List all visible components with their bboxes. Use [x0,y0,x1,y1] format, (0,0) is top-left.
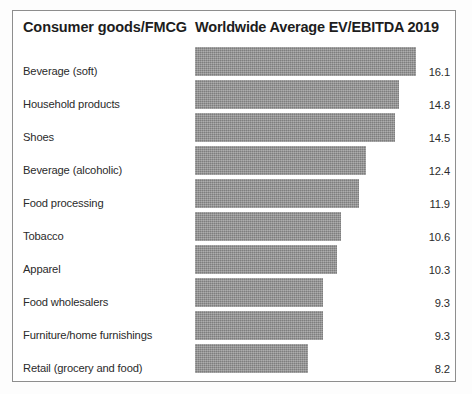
bar[interactable] [195,245,337,274]
chart-row: Shoes14.5 [13,112,455,145]
bar[interactable] [195,311,323,340]
category-label: Beverage (alcoholic) [23,164,122,176]
chart-header-row: Consumer goods/FMCG Worldwide Average EV… [13,11,455,47]
bar-track: 12.4 [195,145,450,178]
category-label: Retail (grocery and food) [23,362,142,374]
bar-value-label: 9.3 [408,330,450,342]
bar-value-label: 8.2 [408,363,450,375]
bar-track: 14.8 [195,79,450,112]
bar[interactable] [195,179,359,208]
bar[interactable] [195,80,399,109]
bar-value-label: 14.5 [408,132,450,144]
category-label: Tobacco [23,230,64,242]
bar[interactable] [195,113,395,142]
chart-row: Apparel10.3 [13,244,455,277]
bar-track: 11.9 [195,178,450,211]
bar[interactable] [195,146,366,175]
category-column-header: Consumer goods/FMCG [23,19,187,35]
bar-track: 10.3 [195,244,450,277]
bar-value-label: 10.6 [408,231,450,243]
bar-value-label: 9.3 [408,297,450,309]
category-label: Food wholesalers [23,296,108,308]
bar-value-label: 16.1 [408,66,450,78]
category-label: Household products [23,98,120,110]
chart-row: Food processing11.9 [13,178,455,211]
chart-frame: Consumer goods/FMCG Worldwide Average EV… [12,10,456,382]
category-label: Food processing [23,197,103,209]
bar-chart-rows: Beverage (soft)16.1Household products14.… [13,46,455,382]
bar[interactable] [195,47,416,76]
bar-value-label: 10.3 [408,264,450,276]
chart-row: Food wholesalers9.3 [13,277,455,310]
chart-row: Beverage (alcoholic)12.4 [13,145,455,178]
value-column-header: Worldwide Average EV/EBITDA 2019 [195,19,439,35]
bar-track: 9.3 [195,310,450,343]
bar-track: 9.3 [195,277,450,310]
bar[interactable] [195,278,323,307]
bar-value-label: 14.8 [408,99,450,111]
bar-value-label: 11.9 [408,198,450,210]
category-label: Shoes [23,131,54,143]
bar-value-label: 12.4 [408,165,450,177]
category-label: Beverage (soft) [23,65,97,77]
bar-track: 10.6 [195,211,450,244]
bar-track: 14.5 [195,112,450,145]
chart-row: Furniture/home furnishings9.3 [13,310,455,343]
category-label: Apparel [23,263,61,275]
page-background: Consumer goods/FMCG Worldwide Average EV… [0,0,472,394]
chart-row: Retail (grocery and food)8.2 [13,343,455,376]
bar[interactable] [195,344,308,373]
bar-track: 8.2 [195,343,450,376]
chart-row: Tobacco10.6 [13,211,455,244]
bar[interactable] [195,212,341,241]
chart-row: Beverage (soft)16.1 [13,46,455,79]
category-label: Furniture/home furnishings [23,329,152,341]
bar-track: 16.1 [195,46,450,79]
chart-row: Household products14.8 [13,79,455,112]
